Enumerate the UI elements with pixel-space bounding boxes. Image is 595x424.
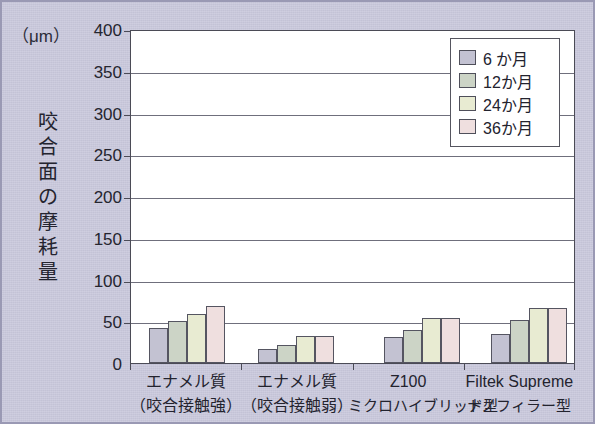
bar xyxy=(277,345,296,363)
y-axis-title-char: 合 xyxy=(35,135,61,160)
y-axis-unit-label: （μm） xyxy=(12,22,70,47)
bar xyxy=(384,337,403,363)
x-axis-category-label-line: （咬合接触強） xyxy=(125,394,246,418)
y-axis-tick-label: 200 xyxy=(94,189,122,206)
y-axis-tick-label: 400 xyxy=(94,22,122,39)
y-axis-tick xyxy=(124,115,131,116)
y-axis-title-char: 量 xyxy=(35,260,61,285)
x-axis-category-label-line: ミクロハイブリッド型 xyxy=(348,394,469,418)
legend-item: 12か月 xyxy=(459,69,551,92)
y-axis-tick xyxy=(124,240,131,241)
bar xyxy=(441,318,460,363)
x-axis-category-label: Z100ミクロハイブリッド型 xyxy=(348,370,469,418)
y-axis-title-char: 摩 xyxy=(35,210,61,235)
y-axis-tick-label: 100 xyxy=(94,273,122,290)
legend-color-swatch xyxy=(459,96,476,111)
legend-label: 12か月 xyxy=(483,69,533,93)
y-axis-title: 咬合面の摩耗量 xyxy=(35,110,61,285)
bar xyxy=(422,318,441,363)
y-axis-tick xyxy=(124,198,131,199)
legend-item: 6 か月 xyxy=(459,46,551,69)
x-axis-category-label-line: エナメル質 xyxy=(125,370,246,394)
y-axis-tick xyxy=(124,73,131,74)
x-axis-category-labels: エナメル質（咬合接触強）エナメル質（咬合接触弱）Z100ミクロハイブリッド型Fi… xyxy=(130,370,575,422)
bar-group xyxy=(149,31,225,363)
y-axis-tick xyxy=(124,282,131,283)
legend-label: 6 か月 xyxy=(483,46,528,70)
y-axis-tick xyxy=(124,323,131,324)
bar xyxy=(529,308,548,363)
bar xyxy=(315,336,334,363)
x-axis-category-label: エナメル質（咬合接触強） xyxy=(125,370,246,418)
y-axis-title-char: 面 xyxy=(35,160,61,185)
y-axis-tick-label: 150 xyxy=(94,231,122,248)
legend-color-swatch xyxy=(459,119,476,134)
x-axis-category-label: エナメル質（咬合接触弱） xyxy=(236,370,357,418)
x-axis-category-label: Filtek Supremeナノフィラー型 xyxy=(459,370,580,418)
y-axis-tick-label: 300 xyxy=(94,106,122,123)
y-axis-title-char: 耗 xyxy=(35,235,61,260)
x-axis-category-label-line: （咬合接触弱） xyxy=(236,394,357,418)
legend-label: 24か月 xyxy=(483,92,533,116)
legend-item: 36か月 xyxy=(459,115,551,138)
legend-label: 36か月 xyxy=(483,115,533,139)
legend-color-swatch xyxy=(459,50,476,65)
bar xyxy=(491,334,510,363)
y-axis-tick-label: 350 xyxy=(94,64,122,81)
chart-figure: （μm） 咬合面の摩耗量 050100150200250300350400 エナ… xyxy=(0,0,595,424)
x-axis-category-label-line: ナノフィラー型 xyxy=(459,394,580,418)
bar xyxy=(168,321,187,363)
bar xyxy=(510,320,529,363)
y-axis-title-char: の xyxy=(35,185,61,210)
bar xyxy=(206,306,225,363)
bar xyxy=(187,314,206,363)
x-axis-category-label-line: エナメル質 xyxy=(236,370,357,394)
legend-item: 24か月 xyxy=(459,92,551,115)
x-axis-category-label-line: Filtek Supreme xyxy=(459,370,580,394)
bar xyxy=(258,349,277,363)
legend-color-swatch xyxy=(459,73,476,88)
bar xyxy=(149,328,168,363)
y-axis-tick-label: 50 xyxy=(103,314,122,331)
y-axis-title-char: 咬 xyxy=(35,110,61,135)
y-axis-tick-label: 250 xyxy=(94,147,122,164)
chart-legend: 6 か月12か月24か月36か月 xyxy=(450,38,560,147)
bar xyxy=(403,330,422,363)
bar xyxy=(296,336,315,363)
y-axis-tick-label: 0 xyxy=(113,356,122,373)
bar-group xyxy=(384,31,460,363)
y-axis-tick xyxy=(124,156,131,157)
y-axis-tick xyxy=(124,31,131,32)
bar-group xyxy=(258,31,334,363)
x-axis-category-label-line: Z100 xyxy=(348,370,469,394)
y-axis-tick-labels: 050100150200250300350400 xyxy=(64,30,122,364)
bar xyxy=(548,308,567,363)
